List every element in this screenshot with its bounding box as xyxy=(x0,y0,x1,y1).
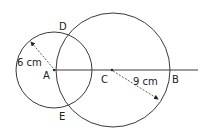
label-a: A xyxy=(43,70,50,81)
label-e: E xyxy=(59,111,65,122)
point-a-dot xyxy=(53,69,55,71)
diagram-canvas: D A C B E 6 cm 9 cm xyxy=(0,0,206,130)
label-b: B xyxy=(172,74,179,85)
point-c-dot xyxy=(111,69,113,71)
label-radius-large: 9 cm xyxy=(133,76,158,87)
label-c: C xyxy=(101,74,108,85)
label-d: D xyxy=(59,21,67,32)
label-radius-small: 6 cm xyxy=(17,57,42,68)
